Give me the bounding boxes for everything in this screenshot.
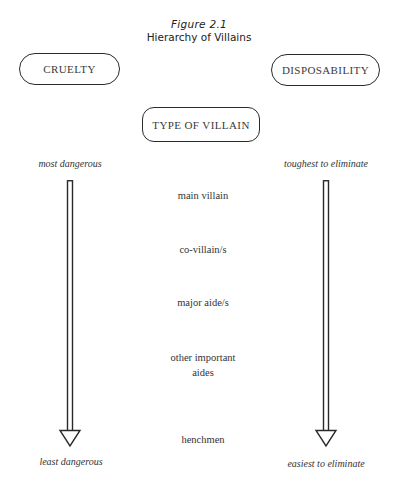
rank-major-aide: major aide/s	[128, 295, 278, 310]
cruelty-top-label: most dangerous	[0, 158, 140, 170]
disposability-header: DISPOSABILITY	[271, 54, 380, 86]
rank-co-villain: co-villain/s	[128, 242, 278, 257]
disposability-arrow-down-icon	[314, 180, 338, 448]
rank-other-line2: aides	[128, 365, 278, 380]
cruelty-header: CRUELTY	[19, 53, 120, 85]
disposability-top-label: toughest to eliminate	[256, 158, 396, 170]
figure-number: Figure 2.1	[0, 18, 398, 31]
cruelty-bottom-label: least dangerous	[1, 456, 141, 468]
type-of-villain-label: TYPE OF VILLAIN	[152, 119, 249, 131]
rank-other-line1: other important	[128, 350, 278, 365]
type-of-villain-header: TYPE OF VILLAIN	[142, 107, 260, 142]
disposability-header-label: DISPOSABILITY	[282, 64, 369, 76]
figure-title: Hierarchy of Villains	[0, 31, 398, 44]
rank-main-villain: main villain	[128, 188, 278, 203]
cruelty-arrow-down-icon	[58, 180, 82, 448]
disposability-bottom-label: easiest to eliminate	[256, 458, 396, 470]
rank-henchmen: henchmen	[128, 432, 278, 447]
cruelty-header-label: CRUELTY	[43, 63, 96, 75]
rank-other-important-aides: other important aides	[128, 350, 278, 380]
